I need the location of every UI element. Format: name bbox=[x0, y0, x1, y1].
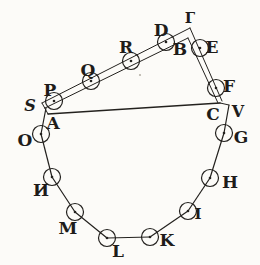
vertex-dot-P bbox=[53, 100, 56, 103]
vertex-dot-L bbox=[106, 237, 109, 240]
vertex-label-I: I bbox=[194, 205, 201, 223]
vertex-label-M: M bbox=[59, 218, 78, 238]
engraving-page: PQRDEFGHIKLMИOГBSACV bbox=[0, 0, 260, 265]
vertex-label-Q: Q bbox=[81, 60, 96, 80]
vertex-label-A: A bbox=[45, 113, 60, 133]
paper-speck bbox=[139, 74, 141, 76]
vertex-label-S: S bbox=[24, 96, 36, 115]
vertex-dot-R bbox=[130, 60, 133, 63]
vertex-dot-D bbox=[165, 41, 168, 44]
vertex-label-B: B bbox=[173, 39, 187, 59]
vertex-dot-H bbox=[209, 177, 212, 180]
polygon-triangle-diagram: PQRDEFGHIKLMИOГBSACV bbox=[0, 0, 260, 265]
vertex-dot-E bbox=[199, 47, 202, 50]
vertex-label-C: C bbox=[206, 104, 220, 124]
vertex-label-D: D bbox=[154, 20, 169, 40]
vertex-dot-Q bbox=[90, 80, 93, 83]
vertex-dot-G bbox=[223, 132, 226, 135]
vertex-label-L: L bbox=[112, 241, 124, 261]
vertex-dot-I bbox=[187, 210, 190, 213]
vertex-label-R: R bbox=[119, 37, 134, 57]
vertex-label-O: O bbox=[18, 130, 33, 150]
vertex-dot-M bbox=[74, 211, 77, 214]
vertex-label-F: F bbox=[223, 76, 235, 96]
vertex-label-P: P bbox=[44, 80, 57, 100]
vertex-label-E: E bbox=[206, 37, 219, 57]
vertex-label-G: G bbox=[234, 127, 249, 147]
vertex-dot-И bbox=[51, 176, 54, 179]
vertex-label-И: И bbox=[33, 180, 49, 200]
vertex-dot-O bbox=[40, 133, 43, 136]
vertex-label-H: H bbox=[222, 172, 238, 192]
vertex-dot-K bbox=[149, 236, 152, 239]
vertex-label-V: V bbox=[231, 102, 245, 121]
vertex-dot-F bbox=[215, 87, 218, 90]
vertex-label-Г: Г bbox=[185, 9, 196, 27]
vertex-label-K: K bbox=[160, 230, 176, 250]
